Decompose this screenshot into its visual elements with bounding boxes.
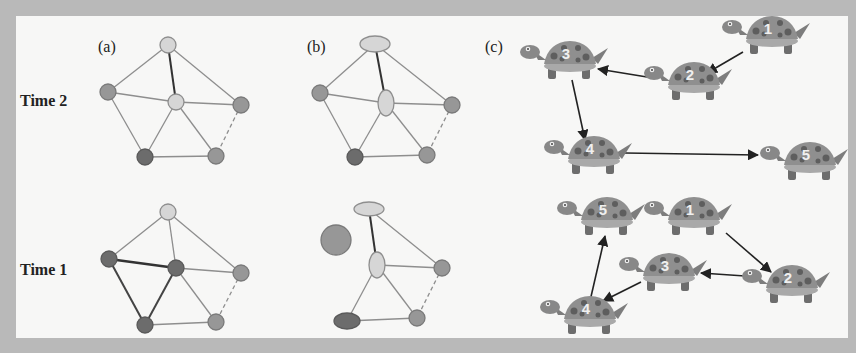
node [168,94,184,110]
node [321,225,351,255]
node [101,251,117,267]
node [409,310,425,326]
node [168,260,184,276]
turtle-5: 5 [760,142,848,180]
turtle-1: 1 [644,197,732,235]
graph-b-time2 [312,36,460,165]
panel-a-label: (a) [98,38,116,56]
node [312,85,328,101]
panel-c-label: (c) [485,38,503,56]
turtle-5: 5 [557,197,645,235]
time2-label: Time 2 [20,92,67,109]
node [100,84,116,100]
svg-text:3: 3 [562,45,570,62]
graph-a-time1 [101,204,249,333]
svg-text:3: 3 [661,257,669,274]
svg-text:1: 1 [686,201,694,218]
node [160,204,176,220]
svg-text:4: 4 [582,300,591,317]
svg-text:1: 1 [764,20,772,37]
graph-b-time1 [321,202,450,329]
turtle-1: 1 [722,16,810,54]
graph-a-time2 [100,37,249,165]
node [233,97,249,113]
panel-b-label: (b) [307,38,326,56]
node [160,37,176,53]
node [208,148,224,164]
node [233,265,249,281]
turtle-3: 3 [520,41,608,79]
svg-text:2: 2 [686,66,694,83]
svg-text:5: 5 [802,146,810,163]
node [369,252,385,278]
time1-label: Time 1 [20,261,67,278]
turtle-2: 2 [742,265,830,303]
turtle-2: 2 [644,62,732,100]
turtle-4: 4 [544,136,632,174]
node [334,313,360,329]
turtle-chain-top: 1 2 3 4 5 [520,16,848,180]
node [378,90,394,116]
node [347,149,363,165]
svg-text:2: 2 [784,269,792,286]
node [208,314,224,330]
node [137,149,153,165]
node [434,260,450,276]
network-figure: (a) (b) (c) Time 2 Time 1 [0,0,856,353]
turtle-3: 3 [619,253,707,291]
turtle-chain-bottom: 5 1 3 2 4 [540,197,830,334]
node [354,202,384,216]
node [444,97,460,113]
node [419,147,435,163]
node [360,36,390,52]
svg-text:4: 4 [586,140,595,157]
node [137,317,153,333]
turtle-4: 4 [540,296,628,334]
svg-text:5: 5 [599,201,607,218]
